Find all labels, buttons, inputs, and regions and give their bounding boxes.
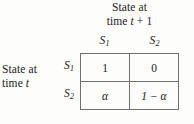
row-header-s2-symbol: S (64, 87, 70, 99)
transition-matrix-grid: 1 0 α 1 − α (80, 53, 179, 110)
column-header-s2: S2 (130, 34, 179, 48)
table-row: α 1 − α (81, 82, 178, 110)
row-header-s2-subscript: 2 (70, 92, 74, 101)
column-axis-caption: State at time t + 1 (80, 1, 179, 28)
row-header-s2: S2 (61, 87, 77, 101)
column-axis-caption-offset: + 1 (134, 15, 152, 27)
cell-s1-s1: 1 (81, 54, 130, 82)
row-axis-caption-time-word: time (2, 77, 26, 89)
row-axis-caption-variable: t (26, 77, 29, 89)
column-header-s1-subscript: 1 (105, 39, 109, 48)
column-axis-caption-line-1: State at (80, 1, 179, 15)
row-axis-caption-line-1: State at (2, 62, 60, 76)
transition-matrix-table: 1 0 α 1 − α (81, 54, 178, 109)
column-header-s2-subscript: 2 (155, 39, 159, 48)
cell-s2-s2: 1 − α (130, 82, 179, 110)
row-header-s1: S1 (61, 59, 77, 73)
cell-s2-s1: α (81, 82, 130, 110)
row-header-s1-symbol: S (64, 59, 70, 71)
column-axis-caption-line-2: time t + 1 (80, 15, 179, 29)
column-header-s1: S1 (80, 34, 129, 48)
row-axis-caption-line-2: time t (2, 76, 60, 90)
column-axis-caption-time-word: time (107, 15, 131, 27)
row-axis-caption: State at time t (2, 62, 60, 90)
table-row: 1 0 (81, 54, 178, 82)
row-header-s1-subscript: 1 (70, 64, 74, 73)
transition-matrix-figure: State at time t + 1 State at time t S1 S… (0, 0, 194, 124)
cell-s1-s2: 0 (130, 54, 179, 82)
